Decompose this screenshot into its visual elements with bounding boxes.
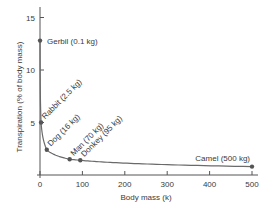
point-label: Gerbil (0.1 kg) — [47, 37, 98, 46]
y-tick-label: 10 — [26, 66, 35, 75]
data-point-marker — [39, 120, 43, 124]
y-tick-label: 15 — [26, 14, 35, 23]
point-label: Camel (500 kg) — [195, 154, 250, 163]
data-point-marker — [45, 148, 49, 152]
x-axis-title: Body mass (k) — [120, 193, 171, 202]
chart: 010020030040050051015 Gerbil (0.1 kg)Rab… — [0, 0, 273, 208]
data-point-marker — [67, 157, 71, 161]
x-tick-label: 400 — [203, 180, 217, 189]
data-point-marker — [250, 164, 254, 168]
x-tick-label: 500 — [245, 180, 259, 189]
data-point-marker — [38, 38, 42, 42]
y-axis-title: Transpiration (% of body mass) — [15, 41, 24, 152]
data-point-marker — [78, 158, 82, 162]
data-points: Gerbil (0.1 kg)Rabbit (2.5 kg)Dog (16 kg… — [38, 37, 254, 169]
x-tick-label: 200 — [118, 180, 132, 189]
y-tick-label: 5 — [31, 119, 36, 128]
x-tick-label: 100 — [76, 180, 90, 189]
x-tick-label: 300 — [161, 180, 175, 189]
x-tick-label: 0 — [38, 180, 43, 189]
